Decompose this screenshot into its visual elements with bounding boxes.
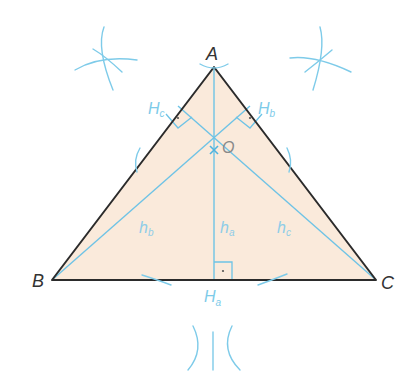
- foot-label-hc: Hc: [148, 100, 165, 119]
- vertex-label-b: B: [32, 271, 44, 291]
- arc-bottom-2: [228, 326, 241, 370]
- vertex-label-a: A: [205, 44, 218, 64]
- arc-top-right-1: [313, 27, 322, 90]
- orthocenter-label: O: [222, 139, 234, 156]
- arc-bottom-1: [188, 326, 198, 370]
- vertex-label-c: C: [381, 273, 395, 293]
- foot-label-hb: Hb: [258, 100, 276, 119]
- arc-apex-left: [200, 64, 228, 68]
- foot-label-ha: Ha: [204, 288, 222, 308]
- triangle-altitudes-diagram: A B C O Hc Hb Ha hb ha hc: [0, 0, 420, 389]
